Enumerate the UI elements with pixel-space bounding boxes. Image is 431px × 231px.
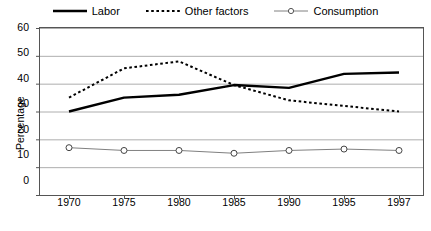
chart-figure: Labor Other factors Consumption Percenta… bbox=[0, 0, 431, 231]
series-labor-line bbox=[69, 73, 399, 112]
series-other-factors-line bbox=[69, 61, 399, 111]
gridlines bbox=[40, 29, 423, 168]
chart-plot-area bbox=[0, 0, 431, 231]
plot-border bbox=[40, 28, 424, 196]
